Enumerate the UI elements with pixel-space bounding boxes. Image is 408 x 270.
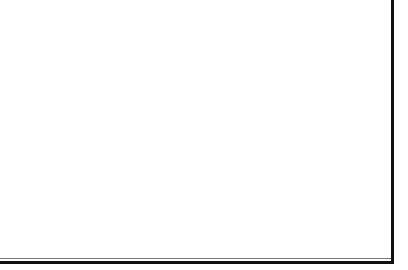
kelvin-scale-bar bbox=[0, 0, 408, 270]
color-temperature-diagram bbox=[0, 0, 408, 270]
frame-bottom-inner-line bbox=[0, 258, 391, 259]
frame-right-border bbox=[391, 0, 394, 264]
frame-bottom-border bbox=[0, 261, 394, 264]
